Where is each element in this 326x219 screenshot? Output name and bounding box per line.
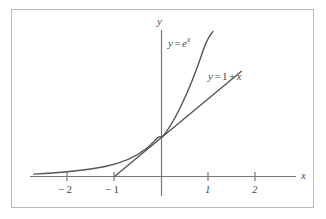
plot-canvas: [0, 0, 326, 219]
x-tick-label-minus2: −2: [58, 184, 72, 195]
x-tick-label-plus2: 2: [252, 184, 258, 195]
tangent-line-label: y=1+x: [208, 71, 242, 82]
exponential-curve: [34, 32, 213, 175]
y-axis-label: y: [157, 16, 162, 27]
line-label-var: x: [237, 70, 242, 82]
x-axis-label: x: [301, 170, 306, 181]
x-tick-label-plus1: 1: [205, 184, 211, 195]
exponential-curve-label: y=ex: [168, 38, 190, 49]
minus-sign-icon: −: [58, 183, 67, 195]
exp-label-equals: =: [173, 37, 182, 49]
tangent-line: [115, 71, 242, 176]
minus-sign-icon: −: [105, 183, 114, 195]
line-label-plus: +: [228, 70, 237, 82]
exp-label-exponent: x: [187, 35, 190, 44]
tick-value: 1: [114, 183, 120, 195]
line-label-equals: =: [213, 70, 222, 82]
line-label-one: 1: [222, 70, 228, 82]
x-tick-label-minus1: −1: [105, 184, 119, 195]
exponential-tangent-figure: y x −2 −1 1 2 y=ex y=1+x: [0, 0, 326, 219]
tick-value: 2: [67, 183, 73, 195]
